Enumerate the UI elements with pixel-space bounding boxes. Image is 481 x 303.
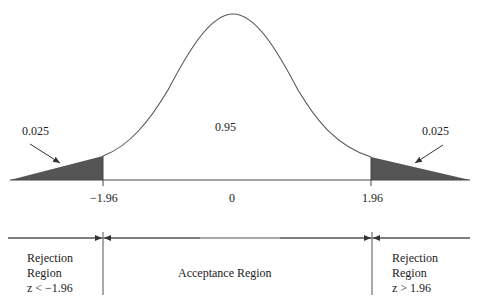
right-region-line1: Rejection <box>392 251 438 266</box>
right-rejection-label: Rejection Region z > 1.96 <box>392 251 438 296</box>
acceptance-region-label: Acceptance Region <box>178 266 272 280</box>
left-region-line3: z < −1.96 <box>27 281 73 296</box>
left-region-line1: Rejection <box>27 251 73 266</box>
left-region-line2: Region <box>27 266 73 281</box>
right-region-line2: Region <box>392 266 438 281</box>
tick-label-neg: −1.96 <box>90 191 118 205</box>
left-rejection-shade <box>10 156 103 180</box>
right-tail-area-label: 0.025 <box>422 124 449 138</box>
right-rejection-shade <box>371 157 470 180</box>
left-rejection-label: Rejection Region z < −1.96 <box>27 251 73 296</box>
center-area-label: 0.95 <box>215 120 236 134</box>
tick-label-zero: 0 <box>229 191 235 205</box>
tick-label-pos: 1.96 <box>362 191 383 205</box>
left-tail-area-label: 0.025 <box>22 124 49 138</box>
right-region-line3: z > 1.96 <box>392 281 438 296</box>
arrow-left-tail <box>30 144 60 163</box>
arrow-right-tail <box>415 145 443 163</box>
bell-curve <box>103 14 371 157</box>
